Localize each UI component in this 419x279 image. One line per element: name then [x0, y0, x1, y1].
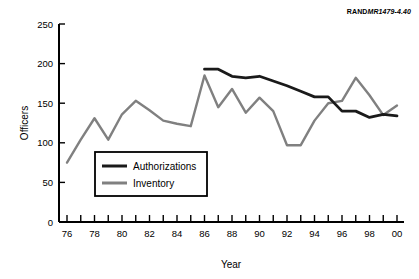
y-tick-label-250: 250	[37, 19, 53, 30]
x-tick-label-00: 00	[392, 228, 403, 239]
x-tick-label-88: 88	[227, 228, 238, 239]
y-axis-title: Officers	[19, 106, 30, 140]
x-tick-label-76: 76	[62, 228, 73, 239]
series-line-inventory	[67, 75, 397, 162]
y-tick-label-50: 50	[42, 177, 53, 188]
x-tick-label-96: 96	[337, 228, 348, 239]
legend-box	[95, 152, 207, 196]
y-tick-label-100: 100	[37, 137, 53, 148]
x-tick-label-84: 84	[172, 228, 183, 239]
y-tick-label-150: 150	[37, 98, 53, 109]
chart-figure: RANDMR1479-4.40 0 50 100 150 200 250 767…	[0, 0, 419, 279]
y-tick-label-0: 0	[48, 217, 53, 228]
x-tick-label-78: 78	[89, 228, 100, 239]
line-chart-plot: 0 50 100 150 200 250 7678808284868890929…	[0, 0, 419, 279]
legend-label-authorizations: Authorizations	[133, 161, 196, 172]
x-tick-label-80: 80	[117, 228, 128, 239]
x-tick-label-90: 90	[254, 228, 265, 239]
x-tick-label-86: 86	[199, 228, 210, 239]
y-tick-label-200: 200	[37, 58, 53, 69]
legend-label-inventory: Inventory	[133, 178, 174, 189]
x-tick-label-92: 92	[282, 228, 293, 239]
x-tick-label-94: 94	[309, 228, 320, 239]
x-axis-title: Year	[221, 259, 242, 270]
x-axis-tick-labels: 76788082848688909294969800	[62, 228, 403, 239]
x-axis-ticks	[67, 215, 397, 222]
x-tick-label-82: 82	[144, 228, 155, 239]
x-tick-label-98: 98	[364, 228, 375, 239]
chart-legend: Authorizations Inventory	[95, 152, 207, 196]
